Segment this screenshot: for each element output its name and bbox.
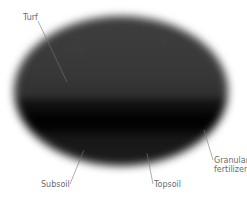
topsoil-leader [147, 153, 153, 184]
topsoil-label: Topsoil [154, 180, 181, 189]
leader-lines [0, 0, 247, 200]
turf-leader [38, 21, 67, 82]
granular-fertilizer-leader [204, 130, 213, 160]
granular-fertilizer-label: Granular fertilizer [214, 156, 247, 174]
soil-diagram: Turf Granular fertilizer Subsoil Topsoil [0, 0, 247, 200]
subsoil-label: Subsoil [41, 180, 70, 189]
turf-label: Turf [23, 13, 38, 22]
granular-label-line2: fertilizer [214, 165, 247, 174]
granular-label-line1: Granular [214, 156, 247, 165]
subsoil-leader [70, 150, 84, 184]
